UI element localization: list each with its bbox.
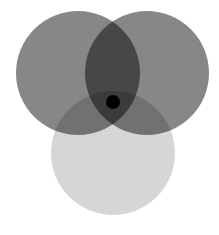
center-intersection-dot (106, 95, 120, 109)
venn-diagram (0, 0, 219, 235)
bottom-circle (51, 91, 175, 215)
venn-diagram-canvas (0, 0, 219, 235)
